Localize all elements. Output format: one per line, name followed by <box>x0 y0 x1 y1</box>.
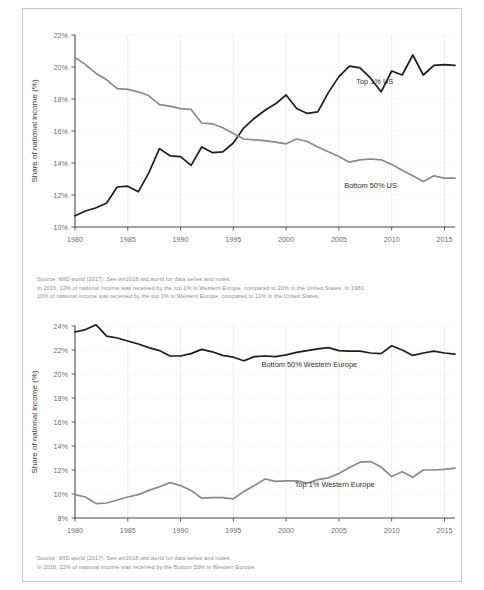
y-axis-title: Share of national income (%) <box>30 370 39 474</box>
caption-line: 10% of national income was received by t… <box>37 292 449 301</box>
y-tick-label: 16% <box>54 127 69 136</box>
chart-us: 10%12%14%16%18%20%22%1980198519901995200… <box>23 23 463 255</box>
y-tick-label: 22% <box>54 346 69 355</box>
series-line <box>75 55 455 216</box>
y-tick-label: 10% <box>54 223 69 232</box>
y-tick-label: 12% <box>54 466 69 475</box>
x-tick-label: 1990 <box>173 526 189 535</box>
series-label: Bottom 50% Western Europe <box>262 360 358 369</box>
y-tick-label: 14% <box>54 159 69 168</box>
x-tick-label: 1990 <box>173 235 189 244</box>
x-tick-label: 1980 <box>67 235 83 244</box>
x-tick-label: 2005 <box>331 526 347 535</box>
series-line <box>75 325 455 361</box>
x-tick-label: 2010 <box>384 526 400 535</box>
figure-western-europe-income-share: 8%10%12%14%16%18%20%22%24%19801985199019… <box>23 314 463 564</box>
chart-we: 8%10%12%14%16%18%20%22%24%19801985199019… <box>23 314 463 546</box>
caption-line: Source: WID.world (2017). See wir2018.wi… <box>37 275 449 284</box>
x-tick-label: 1985 <box>120 526 136 535</box>
y-tick-label: 20% <box>54 63 69 72</box>
y-tick-label: 18% <box>54 95 69 104</box>
x-tick-label: 2010 <box>384 235 400 244</box>
y-tick-label: 22% <box>54 31 69 40</box>
y-tick-label: 24% <box>54 322 69 331</box>
x-tick-label: 2015 <box>436 235 452 244</box>
x-tick-label: 2000 <box>278 235 294 244</box>
series-label: Bottom 50% US <box>344 181 397 190</box>
caption-we: Source: WID.world (2017). See wir2018.wi… <box>37 554 449 571</box>
series-line <box>75 462 455 504</box>
y-tick-label: 14% <box>54 442 69 451</box>
x-tick-label: 1980 <box>67 526 83 535</box>
y-tick-label: 8% <box>58 514 69 523</box>
x-tick-label: 1995 <box>225 526 241 535</box>
y-axis-title: Share of national income (%) <box>30 79 39 183</box>
caption-line: Source: WID.world (2017). See wir2018.wi… <box>37 554 449 563</box>
x-tick-label: 1995 <box>225 235 241 244</box>
y-tick-label: 16% <box>54 418 69 427</box>
caption-line: In 2016, 22% of national income was rece… <box>37 563 449 572</box>
caption-line: In 2016, 12% of national income was rece… <box>37 284 449 293</box>
document-page: 10%12%14%16%18%20%22%1980198519901995200… <box>22 8 462 582</box>
series-label: Top 1% Western Europe <box>295 480 375 489</box>
series-label: Top 1% US <box>356 77 393 86</box>
chart-we-svg: 8%10%12%14%16%18%20%22%24%19801985199019… <box>23 314 463 546</box>
figure-us-income-share: 10%12%14%16%18%20%22%1980198519901995200… <box>23 23 463 273</box>
y-tick-label: 20% <box>54 370 69 379</box>
y-tick-label: 10% <box>54 490 69 499</box>
x-tick-label: 2005 <box>331 235 347 244</box>
caption-us: Source: WID.world (2017). See wir2018.wi… <box>37 275 449 301</box>
x-tick-label: 1985 <box>120 235 136 244</box>
x-tick-label: 2015 <box>436 526 452 535</box>
y-tick-label: 18% <box>54 394 69 403</box>
chart-us-svg: 10%12%14%16%18%20%22%1980198519901995200… <box>23 23 463 255</box>
y-tick-label: 12% <box>54 191 69 200</box>
x-tick-label: 2000 <box>278 526 294 535</box>
